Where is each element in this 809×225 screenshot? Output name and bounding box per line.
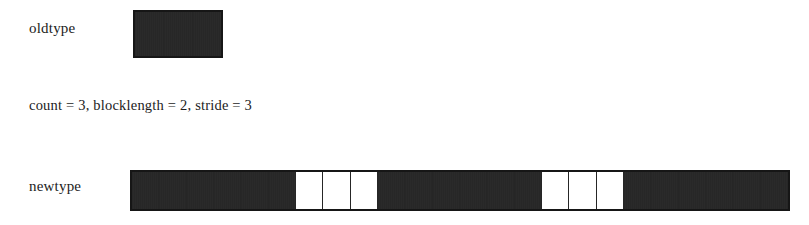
- data-cell-filled: [733, 172, 760, 209]
- data-cell-filled: [164, 12, 193, 56]
- data-cell-filled: [193, 12, 221, 56]
- data-cell-filled: [241, 172, 268, 209]
- data-cell-empty: [323, 172, 350, 209]
- oldtype-label: oldtype: [29, 20, 75, 37]
- data-cell-filled: [706, 172, 733, 209]
- data-cell-empty: [569, 172, 596, 209]
- parameters-text: count = 3, blocklength = 2, stride = 3: [29, 97, 252, 114]
- data-cell-filled: [132, 172, 159, 209]
- data-cell-filled: [460, 172, 487, 209]
- newtype-label: newtype: [29, 178, 81, 195]
- data-cell-filled: [679, 172, 706, 209]
- data-cell-filled: [433, 172, 460, 209]
- data-cell-filled: [405, 172, 432, 209]
- data-cell-filled: [515, 172, 542, 209]
- data-cell-filled: [651, 172, 678, 209]
- newtype-block: [130, 170, 790, 211]
- data-cell-filled: [214, 172, 241, 209]
- data-cell-filled: [624, 172, 651, 209]
- data-cell-filled: [159, 172, 186, 209]
- data-cell-filled: [269, 172, 296, 209]
- data-cell-empty: [597, 172, 624, 209]
- data-cell-empty: [351, 172, 378, 209]
- data-cell-empty: [296, 172, 323, 209]
- data-cell-filled: [135, 12, 164, 56]
- data-cell-filled: [378, 172, 405, 209]
- oldtype-block: [133, 10, 223, 58]
- data-cell-empty: [542, 172, 569, 209]
- data-cell-filled: [761, 172, 788, 209]
- data-cell-filled: [187, 172, 214, 209]
- data-cell-filled: [487, 172, 514, 209]
